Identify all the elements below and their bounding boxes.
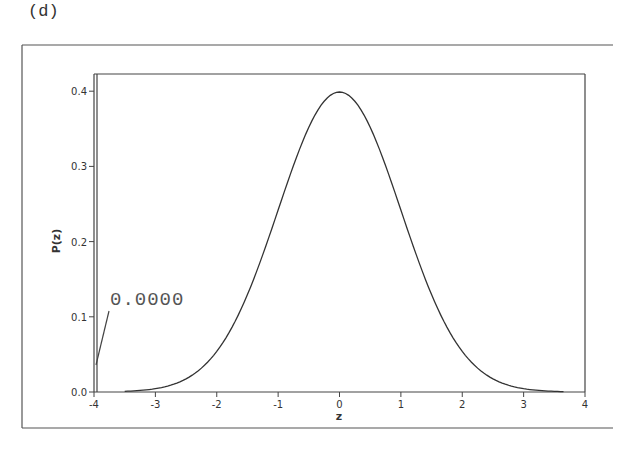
annotation-label: 0.0000 <box>110 289 184 311</box>
x-tick-label: -3 <box>150 399 160 410</box>
y-tick-label: 0.3 <box>71 161 87 172</box>
y-axis-ticks: 0.00.10.20.30.4 <box>71 86 94 398</box>
x-tick-label: 4 <box>582 399 588 410</box>
x-tick-label: 0 <box>336 399 342 410</box>
x-tick-label: 3 <box>520 399 526 410</box>
outer-frame <box>22 45 613 428</box>
x-tick-label: -2 <box>212 399 222 410</box>
plot-area <box>94 74 585 392</box>
y-axis-title: P(z) <box>50 229 63 254</box>
x-axis-ticks: -4-3-2-101234 <box>89 392 588 410</box>
x-tick-label: 1 <box>398 399 404 410</box>
annotation-leader-line <box>96 311 109 365</box>
y-tick-label: 0.4 <box>71 86 87 97</box>
y-tick-label: 0.1 <box>71 312 87 323</box>
x-tick-label: -4 <box>89 399 99 410</box>
x-tick-label: 2 <box>459 399 465 410</box>
y-tick-label: 0.2 <box>71 237 87 248</box>
x-tick-label: -1 <box>273 399 283 410</box>
density-curve <box>125 92 564 392</box>
y-tick-label: 0.0 <box>71 387 87 398</box>
chart: 0.00.10.20.30.4 -4-3-2-101234 z P(z) 0.0… <box>0 0 619 454</box>
x-axis-title: z <box>336 410 342 423</box>
